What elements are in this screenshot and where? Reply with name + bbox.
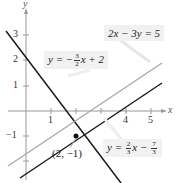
line-eq3 xyxy=(20,83,162,178)
intersection-point xyxy=(74,134,79,139)
y-tick-2: 2 xyxy=(13,53,18,64)
fraction: 23 xyxy=(126,141,132,156)
leader-eq3 xyxy=(104,118,122,140)
x-axis-arrow-icon xyxy=(161,109,167,113)
x-tick-4: 4 xyxy=(123,114,128,125)
y-tick-minus-1: −1 xyxy=(6,129,17,140)
fraction: 73 xyxy=(151,141,157,156)
x-axis-label: x xyxy=(168,104,172,115)
equation-label-3: y = 23x − 73 xyxy=(103,139,162,157)
leader-eq2 xyxy=(120,40,150,62)
intersection-label: (2, −1) xyxy=(52,147,82,159)
equation-label-1: y = −32x + 2 xyxy=(44,51,108,69)
x-tick-5: 5 xyxy=(148,114,153,125)
x-tick-1: 1 xyxy=(48,114,53,125)
fraction: 32 xyxy=(74,53,80,68)
leader-eq1 xyxy=(68,70,90,76)
y-tick-3: 3 xyxy=(13,28,18,39)
equation-label-2: 2x − 3y = 5 xyxy=(104,25,164,41)
y-axis-label: y xyxy=(23,0,27,9)
y-tick-1: 1 xyxy=(13,79,18,90)
